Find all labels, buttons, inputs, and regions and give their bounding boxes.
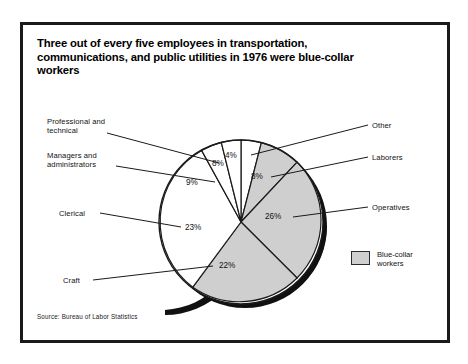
label-managers-and-administrators: Managers and administrators — [47, 151, 97, 170]
source-note: Source: Bureau of Labor Statistics — [37, 313, 138, 320]
pie-chart: 4% 8% 26% 22% 23% 9% 8% — [23, 25, 453, 346]
chart-frame: Three out of every five employees in tra… — [20, 22, 450, 343]
leader-professional — [107, 133, 219, 163]
label-professional-and-technical: Professional and technical — [47, 117, 105, 136]
value-laborers: 8% — [251, 172, 263, 181]
value-professional: 8% — [212, 159, 224, 168]
value-clerical: 23% — [185, 223, 201, 232]
legend: Blue-collar workers — [351, 250, 413, 269]
value-craft: 22% — [219, 261, 235, 270]
label-clerical: Clerical — [59, 209, 85, 218]
leader-other — [251, 125, 368, 155]
legend-swatch-icon — [351, 251, 370, 265]
legend-label: Blue-collar workers — [377, 250, 413, 269]
label-operatives: Operatives — [372, 203, 410, 212]
value-managers: 9% — [186, 178, 198, 187]
value-other: 4% — [225, 151, 237, 160]
label-other: Other — [372, 121, 392, 130]
label-laborers: Laborers — [372, 153, 403, 162]
label-craft: Craft — [63, 276, 80, 285]
value-operatives: 26% — [265, 212, 281, 221]
